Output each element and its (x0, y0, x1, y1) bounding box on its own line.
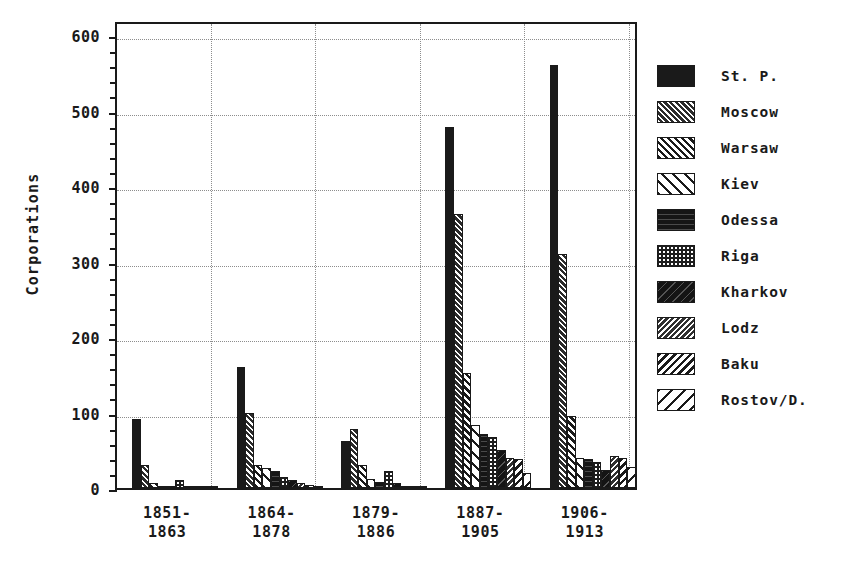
x-axis-tick-label: 1851-1863 (115, 504, 219, 542)
legend-item: Kiev (657, 166, 847, 202)
legend-swatch-icon (657, 353, 695, 375)
bar (245, 413, 254, 488)
plot-area (115, 22, 637, 490)
bar (601, 470, 610, 488)
vertical-gridline (315, 24, 316, 488)
bar (271, 471, 280, 488)
legend-item-label: Odessa (721, 212, 779, 228)
vertical-gridline (420, 24, 421, 488)
y-axis-tick-label: 400 (28, 179, 100, 197)
bar (358, 465, 367, 488)
chart-canvas: Corporations 0100200300400500600 1851-18… (0, 0, 851, 571)
y-axis-tick-label: 600 (28, 28, 100, 46)
bar (262, 468, 271, 488)
x-axis-tick-label-line: 1879- (324, 504, 428, 523)
legend-item: St. P. (657, 58, 847, 94)
bar (280, 477, 289, 488)
bar (305, 485, 314, 488)
legend-item-label: Riga (721, 248, 760, 264)
bar (254, 465, 263, 488)
x-axis-tick-label: 1906-1913 (533, 504, 637, 542)
y-axis-tick-label: 200 (28, 330, 100, 348)
bar (619, 458, 628, 488)
y-axis-tick-label: 100 (28, 406, 100, 424)
legend-item: Moscow (657, 94, 847, 130)
bar (210, 486, 219, 488)
x-axis-tick-label-line: 1905 (428, 523, 532, 542)
x-axis-tick-label: 1864-1878 (220, 504, 324, 542)
y-axis-title: Corporations (24, 104, 42, 364)
legend-swatch-icon (657, 137, 695, 159)
legend-item: Warsaw (657, 130, 847, 166)
legend-swatch-icon (657, 209, 695, 231)
vertical-gridline (211, 24, 212, 488)
legend-swatch-icon (657, 173, 695, 195)
bar (175, 480, 184, 488)
bar (610, 456, 619, 488)
bar (393, 483, 402, 488)
bar (514, 459, 523, 488)
vertical-gridline (629, 24, 630, 488)
bar (384, 471, 393, 488)
legend-item: Rostov/D. (657, 382, 847, 418)
legend-item-label: Moscow (721, 104, 779, 120)
bar (558, 254, 567, 488)
x-axis-tick-label: 1879-1886 (324, 504, 428, 542)
bar (480, 434, 489, 488)
x-axis-tick-label-line: 1913 (533, 523, 637, 542)
legend-swatch-icon (657, 245, 695, 267)
legend-item: Kharkov (657, 274, 847, 310)
bar (201, 486, 210, 488)
bar (341, 441, 350, 488)
bar (401, 486, 410, 488)
legend-item: Riga (657, 238, 847, 274)
bar (375, 482, 384, 488)
bar (167, 486, 176, 488)
bar (132, 419, 141, 488)
bar (627, 467, 635, 488)
x-axis-tick-label-line: 1887- (428, 504, 532, 523)
legend-item-label: Kharkov (721, 284, 788, 300)
legend-swatch-icon (657, 281, 695, 303)
bar (149, 483, 158, 488)
x-axis-tick-label: 1887-1905 (428, 504, 532, 542)
y-axis-tick-label: 300 (28, 255, 100, 273)
legend-swatch-icon (657, 65, 695, 87)
bar (192, 486, 201, 488)
y-axis-tick-label: 0 (28, 481, 100, 499)
bar (488, 437, 497, 488)
legend-item-label: Kiev (721, 176, 760, 192)
bar (297, 483, 306, 488)
bar (141, 465, 150, 488)
legend-swatch-icon (657, 389, 695, 411)
x-axis-tick-label-line: 1886 (324, 523, 428, 542)
legend-item: Lodz (657, 310, 847, 346)
bar (593, 462, 602, 488)
bar (418, 486, 427, 488)
legend-swatch-icon (657, 317, 695, 339)
bar (506, 458, 515, 488)
y-axis-tick-major (109, 490, 117, 492)
bar (567, 416, 576, 488)
bar (410, 486, 419, 488)
bar (497, 450, 506, 488)
legend: St. P.MoscowWarsawKievOdessaRigaKharkovL… (657, 58, 847, 418)
horizontal-gridline (117, 39, 635, 40)
legend-item: Odessa (657, 202, 847, 238)
x-axis-tick-label-line: 1863 (115, 523, 219, 542)
bar (463, 373, 472, 488)
legend-item-label: Rostov/D. (721, 392, 808, 408)
bar (550, 65, 559, 488)
bar (454, 214, 463, 488)
x-axis-tick-label-line: 1864- (220, 504, 324, 523)
bar (523, 473, 532, 488)
x-axis-tick-label-line: 1906- (533, 504, 637, 523)
bar (158, 486, 167, 488)
legend-item-label: Baku (721, 356, 760, 372)
y-axis-tick-label: 500 (28, 104, 100, 122)
legend-item-label: St. P. (721, 68, 779, 84)
bar (367, 479, 376, 488)
bar (471, 425, 480, 488)
legend-swatch-icon (657, 101, 695, 123)
x-axis-tick-label-line: 1878 (220, 523, 324, 542)
